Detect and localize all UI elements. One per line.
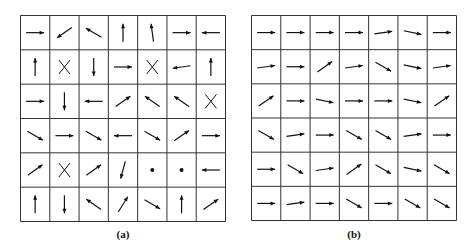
dot-icon [150, 168, 154, 172]
arrow-icon [202, 134, 220, 138]
arrow-icon [288, 165, 304, 174]
arrow-icon [257, 167, 275, 171]
arrow-icon [257, 201, 275, 205]
arrow-icon [287, 132, 305, 136]
arrow-icon [209, 58, 213, 76]
arrow-icon [346, 199, 362, 208]
caption-a: (a) [103, 228, 143, 240]
arrow-icon [258, 131, 274, 140]
arrow-icon [202, 31, 220, 35]
arrow-icon [434, 165, 450, 174]
arrow-icon [316, 31, 334, 35]
arrow-icon [202, 168, 220, 172]
arrow-icon [404, 65, 422, 70]
cross-icon [59, 163, 70, 177]
arrow-icon [144, 131, 160, 140]
arrow-icon [346, 131, 362, 140]
cross-icon [147, 60, 158, 74]
arrow-icon [375, 165, 391, 174]
arrow-icon [86, 165, 101, 175]
arrow-icon [345, 99, 363, 103]
arrow-icon [345, 64, 363, 68]
vector-field-grid-a [20, 15, 226, 222]
arrow-icon [433, 133, 451, 137]
arrow-icon [316, 201, 334, 205]
arrow-icon [375, 131, 391, 140]
arrow-icon [374, 201, 392, 205]
arrow-icon [62, 92, 66, 110]
arrow-icon [144, 200, 160, 209]
arrow-icon [203, 199, 218, 209]
arrow-icon [404, 167, 422, 172]
arrow-icon [433, 64, 451, 68]
arrow-icon [287, 201, 305, 205]
arrow-icon [286, 99, 304, 103]
arrow-icon [62, 195, 66, 213]
arrow-icon [145, 96, 160, 106]
arrow-icon [434, 199, 450, 208]
arrow-icon [174, 131, 189, 141]
arrow-icon [404, 132, 422, 136]
arrow-icon [33, 195, 37, 213]
caption-b: (b) [334, 228, 374, 240]
cross-icon [59, 60, 70, 74]
arrow-icon [345, 31, 363, 35]
arrow-icon [173, 66, 191, 70]
arrow-icon [317, 62, 332, 72]
arrow-icon [118, 197, 128, 212]
arrow-icon [257, 31, 275, 35]
arrow-icon [92, 58, 96, 76]
arrow-icon [27, 131, 43, 140]
panel-a [20, 15, 226, 222]
cross-icon [205, 94, 216, 108]
dot-icon [180, 168, 184, 172]
arrow-icon [174, 96, 189, 106]
arrow-icon [26, 99, 44, 103]
arrow-icon [57, 28, 72, 38]
arrow-icon [28, 165, 43, 175]
arrow-icon [55, 134, 73, 138]
arrow-icon [180, 195, 184, 213]
arrow-icon [120, 161, 125, 178]
vector-field-grid-b [251, 15, 457, 221]
panel-b [251, 15, 457, 221]
arrow-icon [316, 167, 334, 171]
arrow-icon [316, 133, 334, 137]
arrow-icon [286, 31, 304, 35]
arrow-icon [121, 24, 125, 42]
arrow-icon [433, 31, 451, 35]
arrow-icon [33, 58, 37, 76]
arrow-icon [434, 96, 449, 106]
arrow-icon [404, 31, 422, 36]
arrow-icon [259, 96, 274, 106]
arrow-icon [114, 65, 132, 69]
arrow-icon [374, 30, 392, 34]
arrow-icon [116, 96, 131, 106]
arrow-icon [26, 31, 44, 35]
arrow-icon [316, 99, 334, 104]
arrow-icon [347, 164, 362, 174]
arrow-icon [405, 199, 421, 208]
arrow-icon [86, 131, 102, 140]
arrow-icon [257, 64, 275, 68]
arrow-icon [85, 99, 103, 103]
arrow-icon [173, 31, 191, 35]
arrow-icon [375, 62, 391, 71]
arrow-icon [86, 199, 101, 209]
arrow-icon [374, 99, 392, 103]
arrow-icon [150, 24, 154, 42]
arrow-icon [114, 134, 132, 138]
arrow-icon [404, 99, 422, 104]
arrow-icon [286, 65, 304, 69]
arrow-icon [86, 28, 102, 37]
